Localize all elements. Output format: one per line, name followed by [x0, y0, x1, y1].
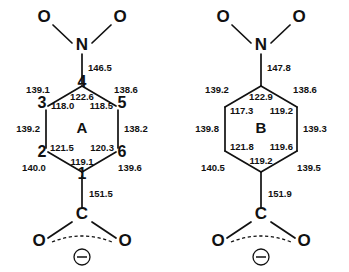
bondlength-c4-c5: 138.6: [114, 84, 138, 95]
atom-carboxyl-c: C: [255, 204, 267, 223]
bondangle-c5-c6-c1: 119.6: [270, 141, 293, 152]
bondlength-c4-n: 147.8: [267, 62, 291, 73]
atom-carboxyl-o-right: O: [118, 231, 131, 250]
ring-vertex-6: 6: [118, 143, 127, 160]
atom-carboxyl-o-left: O: [32, 231, 45, 250]
bond-n-o-left: [232, 25, 251, 43]
ring-vertex-4: 4: [78, 73, 87, 90]
atom-carboxyl-o-left: O: [211, 231, 224, 250]
bond-n-o-left: [53, 25, 72, 43]
atom-nitro-o-right: O: [292, 7, 305, 26]
bond-c-o-right: [271, 222, 295, 238]
bondlength-c1-c2: 140.5: [201, 162, 225, 173]
bondangle-c3-c4-c5: 122.9: [249, 91, 273, 102]
bondangle-c4-c5-c6: 118.5: [90, 100, 114, 111]
structure-b: O O N C O O B 147.8 139.2 138.6 139.8 13…: [174, 0, 349, 272]
bond-n-o-right: [271, 25, 290, 43]
ring-vertex-3: 3: [38, 94, 47, 111]
bond-n-o-right: [92, 25, 111, 43]
atom-nitrogen: N: [76, 35, 88, 54]
ring-label-b: B: [256, 119, 267, 136]
bondlength-c1-carboxyl: 151.5: [89, 188, 113, 199]
bond-c-o-left: [48, 222, 72, 238]
atom-nitro-o-left: O: [37, 7, 50, 26]
bondlength-c4-n: 146.5: [88, 62, 112, 73]
delocalized-bond-arc: [52, 236, 112, 242]
bondlength-c3-c4: 139.2: [205, 84, 229, 95]
atom-carboxyl-c: C: [76, 204, 88, 223]
bondlength-c1-c6: 139.6: [118, 162, 142, 173]
ring-label-a: A: [77, 119, 88, 136]
bondlength-c5-c6: 139.3: [303, 123, 327, 134]
figure-canvas: O O N C O O 4 3 5 2 6 1 A 146.5 139.1 13…: [0, 0, 349, 272]
bondlength-c1-c6: 139.5: [297, 162, 321, 173]
bondangle-c2-c1-c6: 119.2: [249, 155, 272, 166]
atom-nitro-o-right: O: [113, 7, 126, 26]
atom-nitro-o-left: O: [216, 7, 229, 26]
atom-carboxyl-o-right: O: [297, 231, 310, 250]
bondangle-c3-c2-c1: 121.5: [50, 142, 74, 153]
bondangle-c4-c3-c2: 118.0: [51, 100, 74, 111]
bondangle-c5-c6-c1: 120.3: [90, 142, 114, 153]
bondlength-c2-c3: 139.2: [16, 123, 40, 134]
delocalized-bond-arc: [231, 236, 291, 242]
bondlength-c2-c3: 139.8: [195, 123, 219, 134]
ring-vertex-1: 1: [78, 165, 87, 182]
bondlength-c5-c6: 138.2: [124, 123, 148, 134]
bond-c-o-right: [92, 222, 116, 238]
bondangle-c4-c3-c2: 117.3: [230, 105, 253, 116]
bond-c-o-left: [227, 222, 251, 238]
ring-vertex-2: 2: [38, 143, 47, 160]
ring-vertex-5: 5: [118, 94, 127, 111]
structure-b-drawing: O O N C O O B 147.8 139.2 138.6 139.8 13…: [174, 0, 349, 272]
bondangle-c4-c5-c6: 119.2: [270, 105, 293, 116]
bondlength-c1-c2: 140.0: [22, 162, 46, 173]
bondangle-c3-c2-c1: 121.8: [230, 141, 254, 152]
structure-a-drawing: O O N C O O 4 3 5 2 6 1 A 146.5 139.1 13…: [0, 0, 175, 272]
bondlength-c1-carboxyl: 151.9: [268, 188, 292, 199]
structure-a: O O N C O O 4 3 5 2 6 1 A 146.5 139.1 13…: [0, 0, 175, 272]
bondlength-c3-c4: 139.1: [26, 84, 50, 95]
atom-nitrogen: N: [255, 35, 267, 54]
bondangle-c2-c1-c6: 119.1: [70, 156, 94, 167]
bondlength-c4-c5: 138.6: [293, 84, 317, 95]
